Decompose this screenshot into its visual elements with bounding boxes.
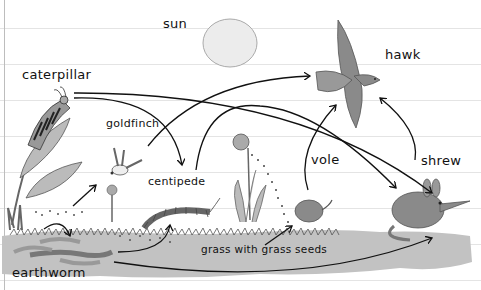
arrow-grass-goldfinch xyxy=(73,185,96,206)
centipede-icon xyxy=(144,198,220,228)
label-grass: grass with grass seeds xyxy=(201,243,327,255)
arrow-shrew-hawk xyxy=(380,98,416,160)
label-goldfinch: goldfinch xyxy=(106,117,159,130)
shrew-icon xyxy=(390,179,470,240)
label-vole: vole xyxy=(311,152,339,167)
food-web-diagram: sun hawk caterpillar goldfinch centipede… xyxy=(0,0,481,290)
label-centipede: centipede xyxy=(148,175,205,188)
label-hawk: hawk xyxy=(385,47,421,62)
arrow-vole-hawk xyxy=(305,105,336,190)
goldfinch-icon xyxy=(111,148,143,175)
arrow-caterpillar-shrew xyxy=(74,93,432,193)
label-earthworm: earthworm xyxy=(12,265,86,280)
small-flower-icon xyxy=(107,185,117,222)
vole-icon xyxy=(295,200,332,222)
arrow-centipede-shrew xyxy=(196,106,396,188)
arrow-caterpillar-centipede xyxy=(74,98,182,165)
label-sun: sun xyxy=(163,16,187,31)
grass-flower-icon xyxy=(233,134,289,223)
label-caterpillar: caterpillar xyxy=(22,67,91,82)
hawk-icon xyxy=(316,20,380,128)
sun-icon xyxy=(203,19,257,67)
label-shrew: shrew xyxy=(421,153,461,168)
